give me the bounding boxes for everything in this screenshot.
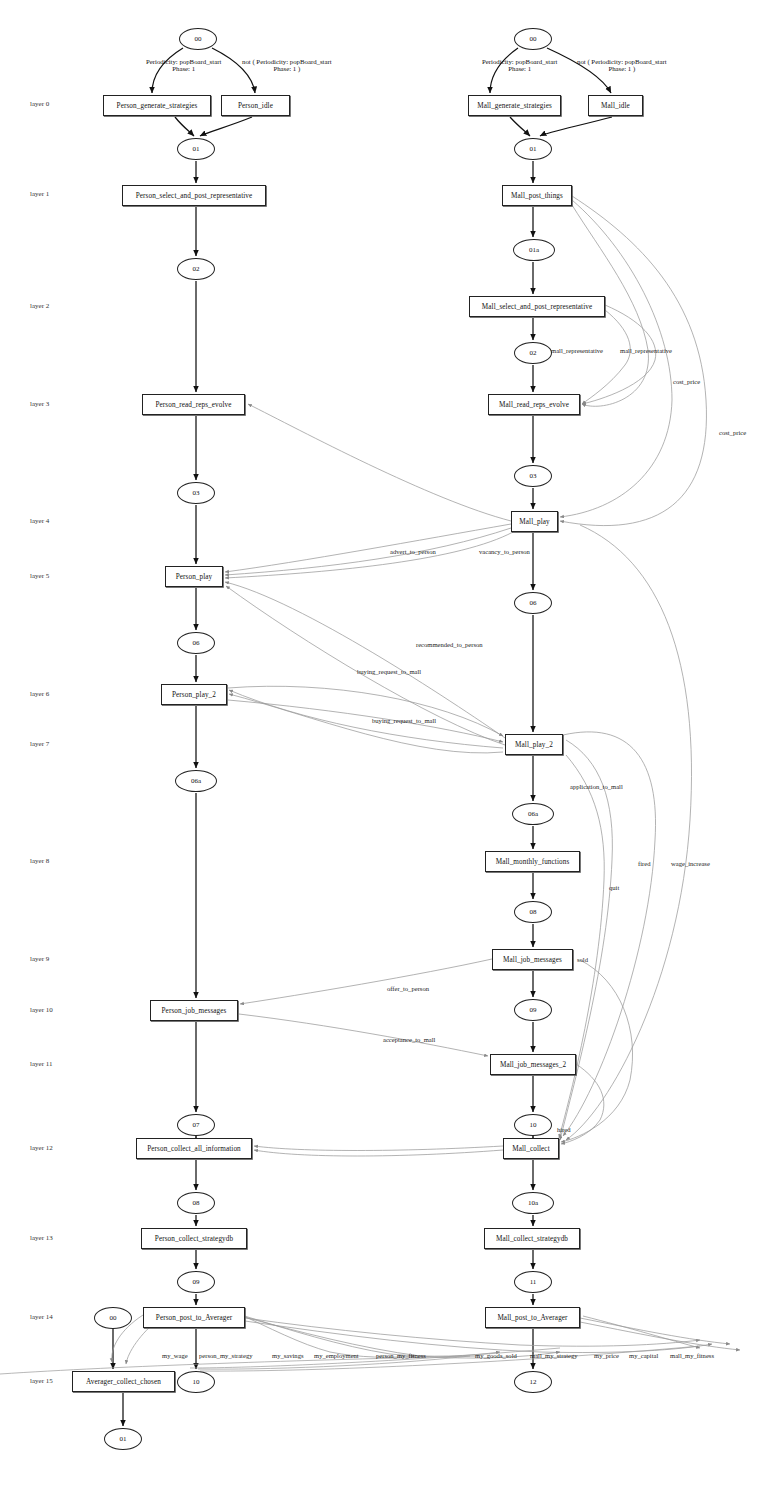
- layer-label: layer 4: [30, 517, 49, 525]
- process-box-person_play_2[interactable]: Person_play_2: [161, 684, 227, 705]
- layer-label: layer 5: [30, 572, 49, 580]
- state-ellipse-m12[interactable]: 12: [514, 1371, 552, 1393]
- edge-label-my_capital: my_capital: [629, 1352, 658, 1359]
- state-ellipse-m01a[interactable]: 01a: [513, 239, 555, 261]
- condition-line-1: Periodicity: popBoard_start: [482, 58, 557, 65]
- edge-label-buying_request_to_mall_1: buying_request_to_mall: [357, 668, 421, 675]
- condition-line-1: Periodicity: popBoard_start: [146, 58, 221, 65]
- process-box-person_read_reps_evolve[interactable]: Person_read_reps_evolve: [142, 394, 245, 415]
- state-ellipse-m01[interactable]: 01: [514, 138, 552, 160]
- layer-label: layer 3: [30, 400, 49, 408]
- edge-label-person_my_fitness: person_my_fitness: [376, 1352, 426, 1359]
- state-ellipse-m08[interactable]: 08: [514, 901, 552, 923]
- condition-label: not ( Periodicity: popBoard_start Phase:…: [242, 58, 332, 72]
- state-ellipse-m06[interactable]: 06: [514, 592, 552, 614]
- layer-label: layer 9: [30, 955, 49, 963]
- state-ellipse-p01[interactable]: 01: [177, 138, 215, 160]
- edge-label-recommended_to_person: recommended_to_person: [416, 641, 483, 648]
- state-ellipse-m09[interactable]: 09: [514, 999, 552, 1021]
- edge-label-sold: sold: [577, 956, 588, 963]
- process-box-mall_collect[interactable]: Mall_collect: [503, 1138, 559, 1159]
- process-box-mall_collect_strategydb[interactable]: Mall_collect_strategydb: [484, 1228, 580, 1249]
- condition-line-2: Phase: 1: [146, 65, 221, 72]
- state-ellipse-p03[interactable]: 03: [177, 482, 215, 504]
- process-box-person_select_and_post_representative[interactable]: Person_select_and_post_representative: [122, 185, 266, 206]
- layer-label: layer 15: [30, 1377, 53, 1385]
- process-box-mall_monthly_functions[interactable]: Mall_monthly_functions: [485, 851, 580, 872]
- layer-label: layer 8: [30, 857, 49, 865]
- state-ellipse-p10[interactable]: 10: [177, 1371, 215, 1393]
- edge-layer: [0, 0, 772, 1495]
- state-ellipse-p06a[interactable]: 06a: [175, 770, 217, 792]
- condition-line-2: Phase: 1 ): [242, 65, 332, 72]
- edge-label-mall_my_strategy: mall_my_strategy: [530, 1352, 578, 1359]
- state-ellipse-p00[interactable]: 00: [179, 28, 217, 50]
- diagram-canvas: layer 0 layer 1 layer 2 layer 3 layer 4 …: [0, 0, 772, 1495]
- process-box-mall_select_and_post_representative[interactable]: Mall_select_and_post_representative: [469, 296, 605, 317]
- layer-label: layer 2: [30, 302, 49, 310]
- edge-label-my_price: my_price: [594, 1352, 619, 1359]
- process-box-person_post_to_averager[interactable]: Person_post_to_Averager: [143, 1307, 245, 1328]
- process-box-mall_job_messages[interactable]: Mall_job_messages: [492, 949, 573, 970]
- edge-label-quit: quit: [609, 884, 619, 891]
- edge-label-fired_1: fired: [638, 860, 650, 867]
- condition-label: Periodicity: popBoard_start Phase: 1: [482, 58, 557, 72]
- process-box-mall_post_things[interactable]: Mall_post_things: [502, 185, 572, 206]
- process-box-person_collect_all_information[interactable]: Person_collect_all_information: [136, 1138, 252, 1159]
- process-box-person_job_messages[interactable]: Person_job_messages: [150, 1000, 238, 1021]
- state-ellipse-av00[interactable]: 00: [94, 1307, 132, 1329]
- process-box-mall_play_2[interactable]: Mall_play_2: [505, 734, 563, 755]
- state-ellipse-m10[interactable]: 10: [514, 1114, 552, 1136]
- state-ellipse-p06[interactable]: 06: [177, 632, 215, 654]
- edge-label-hired: hired: [557, 1126, 571, 1133]
- state-ellipse-p09[interactable]: 09: [177, 1271, 215, 1293]
- layer-label: layer 10: [30, 1006, 53, 1014]
- state-ellipse-m06a[interactable]: 06a: [512, 803, 554, 825]
- state-ellipse-av01[interactable]: 01: [104, 1428, 142, 1450]
- state-ellipse-m10a[interactable]: 10a: [512, 1192, 554, 1214]
- process-box-mall_generate_strategies[interactable]: Mall_generate_strategies: [468, 95, 561, 116]
- process-box-mall_post_to_averager[interactable]: Mall_post_to_Averager: [485, 1307, 580, 1328]
- layer-label: layer 13: [30, 1234, 53, 1242]
- layer-label: layer 6: [30, 690, 49, 698]
- condition-line-1: not ( Periodicity: popBoard_start: [242, 58, 332, 65]
- layer-label: layer 11: [30, 1060, 52, 1068]
- edge-label-person_my_strategy: person_my_strategy: [199, 1352, 252, 1359]
- state-ellipse-p07[interactable]: 07: [177, 1114, 215, 1136]
- process-box-person_play[interactable]: Person_play: [165, 566, 223, 587]
- state-ellipse-m11[interactable]: 11: [514, 1271, 552, 1293]
- edge-label-my_wage: my_wage: [162, 1352, 188, 1359]
- process-box-person_idle[interactable]: Person_idle: [221, 95, 290, 116]
- edge-label-wage_increase: wage_increase: [671, 860, 710, 867]
- edge-label-cost_price_1: cost_price: [673, 378, 700, 385]
- layer-label: layer 7: [30, 740, 49, 748]
- condition-line-2: Phase: 1 ): [577, 65, 667, 72]
- state-ellipse-m02[interactable]: 02: [514, 342, 552, 364]
- condition-line-2: Phase: 1: [482, 65, 557, 72]
- edge-label-mall_representative_1: mall_representative: [551, 347, 603, 354]
- process-box-person_generate_strategies[interactable]: Person_generate_strategies: [103, 95, 211, 116]
- condition-label: Periodicity: popBoard_start Phase: 1: [146, 58, 221, 72]
- edge-label-advert_to_person: advert_to_person: [390, 548, 436, 555]
- edge-label-buying_request_to_mall_2: buying_request_to_mall: [372, 717, 436, 724]
- edge-label-acceptance_to_mall: acceptance_to_mall: [383, 1036, 435, 1043]
- edge-label-application_to_mall: application_to_mall: [570, 783, 623, 790]
- condition-label: not ( Periodicity: popBoard_start Phase:…: [577, 58, 667, 72]
- edge-label-my_savings: my_savings: [272, 1352, 304, 1359]
- layer-label: layer 0: [30, 100, 49, 108]
- layer-label: layer 1: [30, 190, 49, 198]
- process-box-mall_idle[interactable]: Mall_idle: [588, 95, 643, 116]
- state-ellipse-m00[interactable]: 00: [514, 28, 552, 50]
- edge-label-my_goods_sold: my_goods_sold: [475, 1352, 517, 1359]
- state-ellipse-m03[interactable]: 03: [514, 465, 552, 487]
- edge-label-vacancy_to_person: vacancy_to_person: [479, 548, 530, 555]
- layer-label: layer 14: [30, 1313, 53, 1321]
- process-box-mall_job_messages_2[interactable]: Mall_job_messages_2: [490, 1054, 576, 1075]
- process-box-mall_play[interactable]: Mall_play: [511, 511, 558, 532]
- process-box-person_collect_strategydb[interactable]: Person_collect_strategydb: [141, 1228, 247, 1249]
- edge-label-mall_my_fitness: mall_my_fitness: [670, 1352, 714, 1359]
- state-ellipse-p08[interactable]: 08: [177, 1192, 215, 1214]
- process-box-mall_read_reps_evolve[interactable]: Mall_read_reps_evolve: [488, 394, 580, 415]
- process-box-averager_collect_chosen[interactable]: Averager_collect_chosen: [72, 1371, 175, 1392]
- state-ellipse-p02[interactable]: 02: [177, 258, 215, 280]
